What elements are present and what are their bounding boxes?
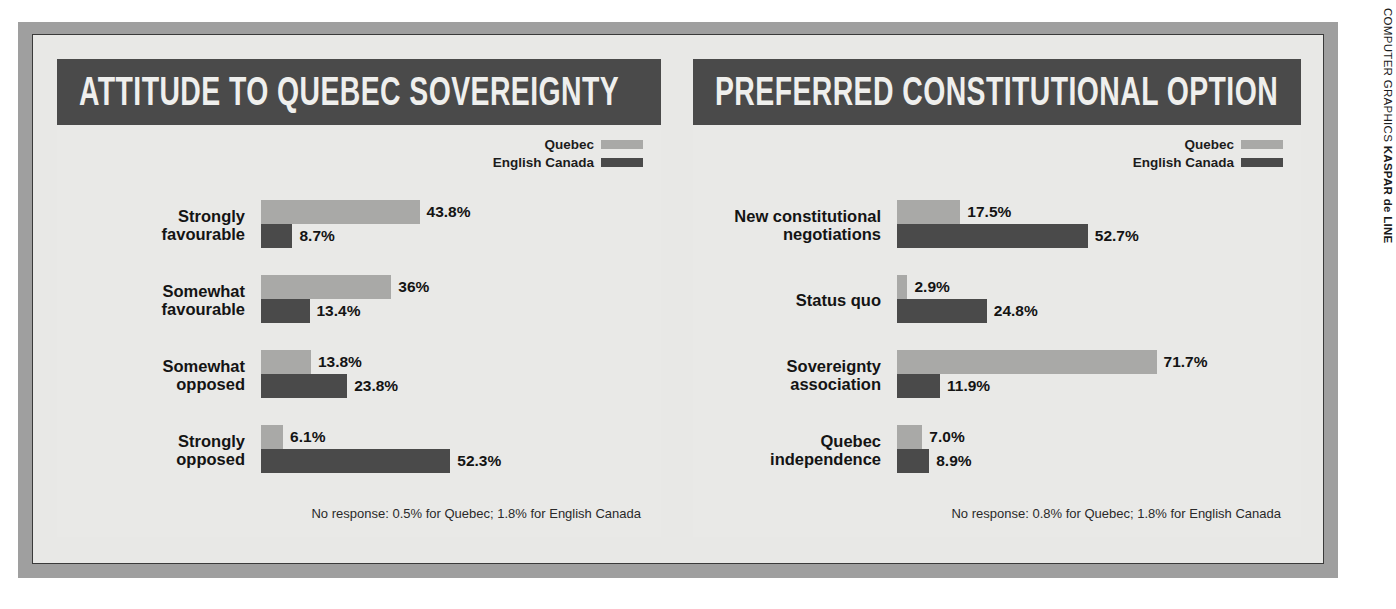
credit-prefix: COMPUTER GRAPHICS xyxy=(1382,8,1394,142)
bar-line-english: 24.8% xyxy=(897,299,1038,323)
bar-row-label: Sovereignty association xyxy=(693,356,889,393)
chart-body: Quebec English Canada Strongly favourabl… xyxy=(57,125,661,537)
bar-row-label: Somewhat opposed xyxy=(57,356,253,393)
bar-line-quebec: 43.8% xyxy=(261,200,471,224)
chart-title: ATTITUDE TO QUEBEC SOVEREIGNTY xyxy=(79,69,619,115)
bar-line-english: 8.7% xyxy=(261,224,335,248)
credit-author: KASPAR de LINE xyxy=(1382,146,1394,244)
legend-label-quebec: Quebec xyxy=(1184,137,1234,152)
legend-label-english-canada: English Canada xyxy=(493,155,594,170)
bar-english xyxy=(261,299,310,323)
bar-row-label: Quebec independence xyxy=(693,431,889,468)
bar-row-label: Strongly opposed xyxy=(57,431,253,468)
bar-row: Sovereignty association71.7%11.9% xyxy=(693,337,1301,412)
bar-row-bars: 6.1%52.3% xyxy=(261,412,661,487)
bar-value-quebec: 71.7% xyxy=(1164,353,1208,371)
bar-english xyxy=(261,374,347,398)
bar-line-english: 8.9% xyxy=(897,449,972,473)
chart-title: PREFERRED CONSTITUTIONAL OPTION xyxy=(715,69,1278,115)
bar-line-quebec: 17.5% xyxy=(897,200,1011,224)
bar-row-bars: 13.8%23.8% xyxy=(261,337,661,412)
bar-value-quebec: 6.1% xyxy=(290,428,325,446)
bar-row: Strongly opposed6.1%52.3% xyxy=(57,412,661,487)
bar-row: Somewhat opposed13.8%23.8% xyxy=(57,337,661,412)
figure-inner-panel: ATTITUDE TO QUEBEC SOVEREIGNTY Quebec En… xyxy=(32,34,1324,564)
bar-row-label: Strongly favourable xyxy=(57,206,253,243)
bar-row-bars: 17.5%52.7% xyxy=(897,187,1301,262)
bar-english xyxy=(261,224,292,248)
bar-line-quebec: 7.0% xyxy=(897,425,965,449)
bar-row-bars: 36%13.4% xyxy=(261,262,661,337)
bar-value-quebec: 7.0% xyxy=(929,428,964,446)
legend-item-english-canada: English Canada xyxy=(1133,155,1283,170)
legend-swatch-quebec xyxy=(1241,140,1283,149)
bar-quebec xyxy=(261,275,391,299)
bar-english xyxy=(897,374,940,398)
legend-swatch-quebec xyxy=(601,140,643,149)
bar-rows: New constitutional negotiations17.5%52.7… xyxy=(693,187,1301,487)
bar-quebec xyxy=(897,200,960,224)
bar-row-bars: 43.8%8.7% xyxy=(261,187,661,262)
bar-value-english: 8.9% xyxy=(936,452,971,470)
bar-quebec xyxy=(261,350,311,374)
chart-body: Quebec English Canada New constitutional… xyxy=(693,125,1301,537)
chart-footnote: No response: 0.8% for Quebec; 1.8% for E… xyxy=(951,506,1281,521)
bar-row-bars: 71.7%11.9% xyxy=(897,337,1301,412)
chart-panel-constitutional-option: PREFERRED CONSTITUTIONAL OPTION Quebec E… xyxy=(693,59,1301,537)
bar-rows: Strongly favourable43.8%8.7%Somewhat fav… xyxy=(57,187,661,487)
bar-english xyxy=(261,449,450,473)
legend: Quebec English Canada xyxy=(493,137,643,170)
bar-quebec xyxy=(897,275,907,299)
bar-line-quebec: 36% xyxy=(261,275,429,299)
bar-value-english: 23.8% xyxy=(354,377,398,395)
legend-item-quebec: Quebec xyxy=(544,137,643,152)
bar-row: New constitutional negotiations17.5%52.7… xyxy=(693,187,1301,262)
bar-row-label: Status quo xyxy=(693,290,889,308)
bar-line-english: 23.8% xyxy=(261,374,398,398)
bar-line-quebec: 71.7% xyxy=(897,350,1208,374)
bar-value-quebec: 43.8% xyxy=(427,203,471,221)
bar-value-english: 24.8% xyxy=(994,302,1038,320)
bar-value-quebec: 13.8% xyxy=(318,353,362,371)
bar-value-quebec: 2.9% xyxy=(914,278,949,296)
legend-item-quebec: Quebec xyxy=(1184,137,1283,152)
bar-value-quebec: 36% xyxy=(398,278,429,296)
bar-value-english: 52.3% xyxy=(457,452,501,470)
bar-value-english: 52.7% xyxy=(1095,227,1139,245)
bar-line-quebec: 2.9% xyxy=(897,275,950,299)
chart-title-bar: ATTITUDE TO QUEBEC SOVEREIGNTY xyxy=(57,59,661,125)
bar-line-english: 11.9% xyxy=(897,374,990,398)
bar-value-english: 8.7% xyxy=(299,227,334,245)
bar-row-label: Somewhat favourable xyxy=(57,281,253,318)
bar-line-english: 52.7% xyxy=(897,224,1139,248)
bar-row: Somewhat favourable36%13.4% xyxy=(57,262,661,337)
credit-line: COMPUTER GRAPHICS KASPAR de LINE xyxy=(1376,8,1394,308)
legend-label-quebec: Quebec xyxy=(544,137,594,152)
bar-row-bars: 2.9%24.8% xyxy=(897,262,1301,337)
legend-label-english-canada: English Canada xyxy=(1133,155,1234,170)
bar-line-quebec: 13.8% xyxy=(261,350,362,374)
bar-english xyxy=(897,299,987,323)
bar-english xyxy=(897,224,1088,248)
bar-line-english: 13.4% xyxy=(261,299,360,323)
bar-quebec xyxy=(261,425,283,449)
chart-panel-attitude: ATTITUDE TO QUEBEC SOVEREIGNTY Quebec En… xyxy=(57,59,661,537)
bar-english xyxy=(897,449,929,473)
bar-row-label: New constitutional negotiations xyxy=(693,206,889,243)
legend-swatch-english-canada xyxy=(1241,158,1283,167)
bar-row: Status quo2.9%24.8% xyxy=(693,262,1301,337)
bar-line-english: 52.3% xyxy=(261,449,501,473)
bar-row: Strongly favourable43.8%8.7% xyxy=(57,187,661,262)
legend: Quebec English Canada xyxy=(1133,137,1283,170)
chart-footnote: No response: 0.5% for Quebec; 1.8% for E… xyxy=(311,506,641,521)
bar-value-english: 13.4% xyxy=(317,302,361,320)
bar-row-bars: 7.0%8.9% xyxy=(897,412,1301,487)
legend-item-english-canada: English Canada xyxy=(493,155,643,170)
legend-swatch-english-canada xyxy=(601,158,643,167)
figure-frame: ATTITUDE TO QUEBEC SOVEREIGNTY Quebec En… xyxy=(18,22,1338,578)
chart-title-bar: PREFERRED CONSTITUTIONAL OPTION xyxy=(693,59,1301,125)
bar-value-english: 11.9% xyxy=(947,377,990,395)
bar-row: Quebec independence7.0%8.9% xyxy=(693,412,1301,487)
bar-line-quebec: 6.1% xyxy=(261,425,325,449)
bar-value-quebec: 17.5% xyxy=(967,203,1011,221)
